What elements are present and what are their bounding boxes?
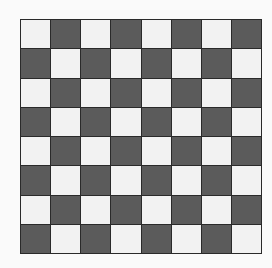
board-square-4-6[interactable] — [202, 137, 231, 165]
board-square-1-5[interactable] — [172, 49, 201, 77]
board-square-6-2[interactable] — [81, 196, 110, 224]
board-square-4-2[interactable] — [81, 137, 110, 165]
board-square-6-4[interactable] — [142, 196, 171, 224]
board-square-1-3[interactable] — [111, 49, 140, 77]
board-square-0-3[interactable] — [111, 20, 140, 48]
board-square-7-0[interactable] — [21, 225, 50, 253]
board-square-7-7[interactable] — [232, 225, 261, 253]
board-square-5-5[interactable] — [172, 166, 201, 194]
board-square-7-5[interactable] — [172, 225, 201, 253]
board-square-6-3[interactable] — [111, 196, 140, 224]
board-square-2-2[interactable] — [81, 79, 110, 107]
board-square-7-6[interactable] — [202, 225, 231, 253]
board-square-2-3[interactable] — [111, 79, 140, 107]
board-square-6-5[interactable] — [172, 196, 201, 224]
board-square-3-0[interactable] — [21, 108, 50, 136]
board-square-7-1[interactable] — [51, 225, 80, 253]
board-square-4-7[interactable] — [232, 137, 261, 165]
board-square-0-5[interactable] — [172, 20, 201, 48]
board-square-2-7[interactable] — [232, 79, 261, 107]
board-square-6-6[interactable] — [202, 196, 231, 224]
board-square-3-6[interactable] — [202, 108, 231, 136]
board-square-3-4[interactable] — [142, 108, 171, 136]
board-square-6-0[interactable] — [21, 196, 50, 224]
board-square-1-2[interactable] — [81, 49, 110, 77]
board-square-3-5[interactable] — [172, 108, 201, 136]
board-square-5-7[interactable] — [232, 166, 261, 194]
board-square-6-1[interactable] — [51, 196, 80, 224]
board-square-2-4[interactable] — [142, 79, 171, 107]
board-square-7-2[interactable] — [81, 225, 110, 253]
board-square-4-5[interactable] — [172, 137, 201, 165]
board-square-0-4[interactable] — [142, 20, 171, 48]
board-square-4-0[interactable] — [21, 137, 50, 165]
board-square-5-3[interactable] — [111, 166, 140, 194]
board-square-7-4[interactable] — [142, 225, 171, 253]
board-square-1-1[interactable] — [51, 49, 80, 77]
board-square-0-1[interactable] — [51, 20, 80, 48]
board-square-5-1[interactable] — [51, 166, 80, 194]
board-square-2-1[interactable] — [51, 79, 80, 107]
board-square-4-1[interactable] — [51, 137, 80, 165]
board-square-5-0[interactable] — [21, 166, 50, 194]
board-square-4-4[interactable] — [142, 137, 171, 165]
board-square-3-2[interactable] — [81, 108, 110, 136]
board-square-0-7[interactable] — [232, 20, 261, 48]
board-square-1-7[interactable] — [232, 49, 261, 77]
board-square-2-5[interactable] — [172, 79, 201, 107]
checkerboard — [20, 19, 262, 254]
board-square-7-3[interactable] — [111, 225, 140, 253]
board-square-3-7[interactable] — [232, 108, 261, 136]
board-square-6-7[interactable] — [232, 196, 261, 224]
board-square-4-3[interactable] — [111, 137, 140, 165]
board-square-1-4[interactable] — [142, 49, 171, 77]
board-square-5-4[interactable] — [142, 166, 171, 194]
board-square-3-1[interactable] — [51, 108, 80, 136]
board-square-5-2[interactable] — [81, 166, 110, 194]
board-square-5-6[interactable] — [202, 166, 231, 194]
board-square-0-6[interactable] — [202, 20, 231, 48]
board-square-2-0[interactable] — [21, 79, 50, 107]
board-square-3-3[interactable] — [111, 108, 140, 136]
board-square-1-6[interactable] — [202, 49, 231, 77]
board-square-0-0[interactable] — [21, 20, 50, 48]
board-square-0-2[interactable] — [81, 20, 110, 48]
board-square-1-0[interactable] — [21, 49, 50, 77]
board-square-2-6[interactable] — [202, 79, 231, 107]
